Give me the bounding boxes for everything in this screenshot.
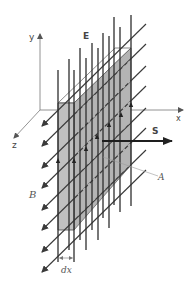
- x-axis-label: x: [176, 114, 181, 123]
- area-label: A: [157, 172, 165, 182]
- z-axis: [14, 110, 40, 138]
- poynting-vector-label: S: [152, 126, 158, 136]
- y-axis-label: y: [29, 32, 35, 42]
- z-axis-label: z: [12, 140, 17, 150]
- thickness-label: dx: [61, 265, 72, 275]
- em-wave-diagram: y x z: [0, 0, 193, 288]
- electric-field-label: E: [83, 31, 89, 41]
- thickness-dimension: dx: [60, 258, 73, 275]
- magnetic-field-label: B: [28, 189, 36, 200]
